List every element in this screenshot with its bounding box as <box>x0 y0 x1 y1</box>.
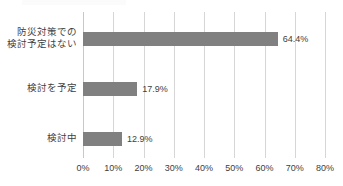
x-tick-0: 0% <box>76 162 89 174</box>
bar-chart: 64.4% 17.9% 12.9% 防災対策での 検討予定はない 検討を予定 検… <box>0 0 343 186</box>
category-label-0: 防災対策での 検討予定はない <box>0 26 77 50</box>
bar-2[interactable] <box>83 132 122 146</box>
cropped-title-artifact <box>22 0 126 5</box>
category-label-2: 検討中 <box>0 132 77 144</box>
category-label-1: 検討を予定 <box>0 82 77 94</box>
bar-value-2: 12.9% <box>127 134 153 144</box>
bar-row: 17.9% <box>83 82 325 96</box>
gridline-80 <box>325 12 326 158</box>
x-tick-30: 30% <box>165 162 183 174</box>
plot-area: 64.4% 17.9% 12.9% <box>83 12 325 158</box>
x-tick-50: 50% <box>225 162 243 174</box>
bar-value-1: 17.9% <box>142 84 168 94</box>
x-tick-20: 20% <box>134 162 152 174</box>
bar-value-0: 64.4% <box>283 34 309 44</box>
bar-1[interactable] <box>83 82 137 96</box>
bar-row: 64.4% <box>83 32 325 46</box>
bar-0[interactable] <box>83 32 278 46</box>
bar-row: 12.9% <box>83 132 325 146</box>
x-tick-80: 80% <box>316 162 334 174</box>
x-tick-40: 40% <box>195 162 213 174</box>
x-axis-tick-labels: 0% 10% 20% 30% 40% 50% 60% 70% 80% <box>83 162 325 178</box>
x-tick-10: 10% <box>104 162 122 174</box>
x-tick-60: 60% <box>255 162 273 174</box>
x-tick-70: 70% <box>286 162 304 174</box>
